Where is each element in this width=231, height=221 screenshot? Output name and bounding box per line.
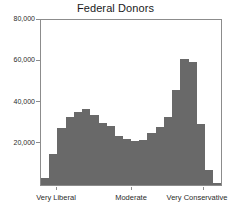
x-tick-label-very-conservative: Very Conservative: [167, 193, 228, 202]
x-tick-label-very-liberal: Very Liberal: [36, 193, 76, 202]
x-axis: Very Liberal Moderate Very Conservative: [0, 187, 231, 209]
y-tick-label: 80,000: [14, 14, 35, 24]
x-tick-mark: [131, 187, 132, 190]
y-tick-label: 60,000: [14, 55, 35, 65]
chart-screenshot: Federal Donors 80,000 60,000 40,000 20,0…: [0, 0, 231, 221]
x-tick-mark: [56, 187, 57, 190]
page-title: Federal Donors: [0, 2, 231, 14]
y-axis: 80,000 60,000 40,000 20,000: [0, 19, 40, 186]
x-tick-label-moderate: Moderate: [115, 193, 147, 202]
histogram-bar: [213, 183, 222, 185]
x-tick-mark: [203, 187, 204, 190]
histogram-bars: [41, 20, 221, 185]
y-tick-label: 20,000: [14, 138, 35, 148]
y-tick-label: 40,000: [14, 97, 35, 107]
